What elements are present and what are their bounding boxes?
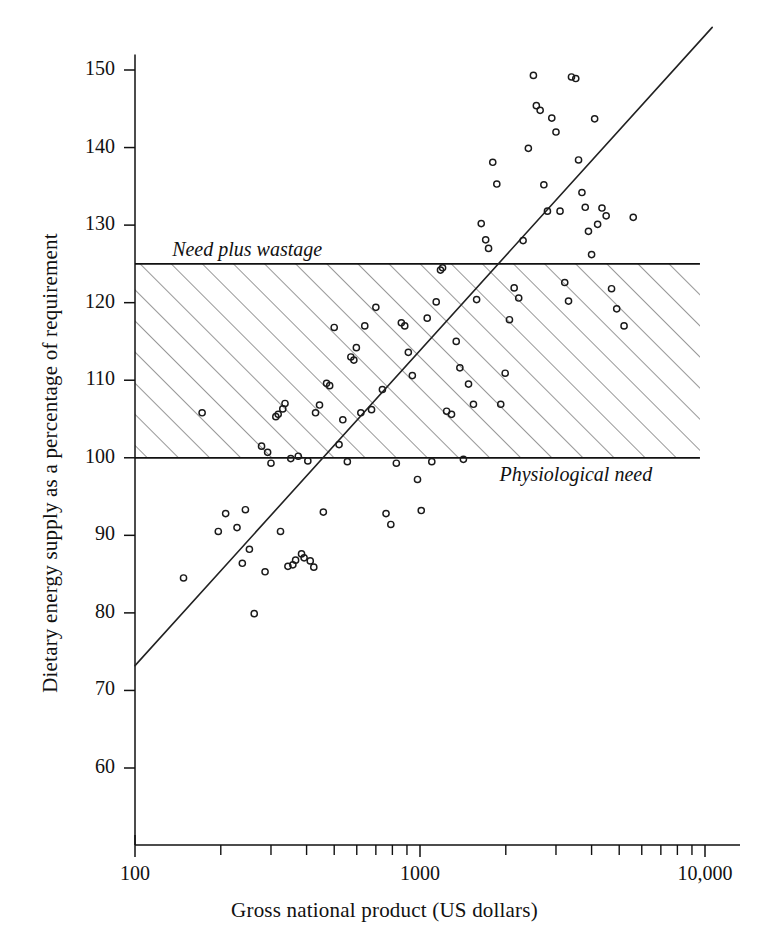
annotation-physiological-need: Physiological need: [499, 463, 652, 486]
y-tick-label: 150: [55, 57, 115, 80]
x-tick-label: 100: [75, 862, 195, 885]
y-tick-label: 110: [55, 367, 115, 390]
x-tick-label: 10,000: [645, 862, 765, 885]
x-axis-title: Gross national product (US dollars): [0, 898, 769, 923]
y-tick-label: 120: [55, 290, 115, 313]
y-tick-label: 140: [55, 135, 115, 158]
y-tick-label: 80: [55, 600, 115, 623]
scatter-chart-figure: Dietary energy supply as a percentage of…: [0, 0, 769, 950]
y-tick-label: 100: [55, 445, 115, 468]
annotation-need-plus-wastage: Need plus wastage: [172, 238, 322, 261]
y-tick-label: 70: [55, 677, 115, 700]
x-tick-label: 1000: [360, 862, 480, 885]
x-axis-ticks: [135, 835, 705, 857]
plot-canvas: [0, 0, 769, 950]
y-tick-label: 90: [55, 522, 115, 545]
y-axis-ticks: [124, 70, 135, 768]
y-tick-label: 60: [55, 755, 115, 778]
y-tick-label: 130: [55, 212, 115, 235]
adequacy-band: [135, 264, 700, 458]
